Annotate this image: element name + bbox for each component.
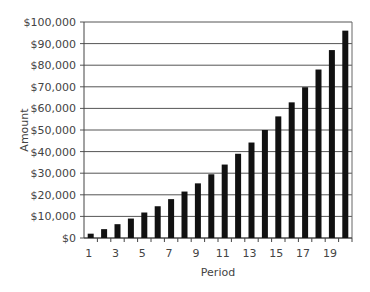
x-tick-label: 3 [112, 247, 119, 260]
x-tick-label: 17 [296, 247, 310, 260]
bar-chart: $0$10,000$20,000$30,000$40,000$50,000$60… [0, 0, 370, 292]
x-tick-label: 9 [192, 247, 199, 260]
y-tick-label: $50,000 [31, 124, 77, 137]
bar [155, 206, 161, 238]
y-tick-label: $90,000 [31, 38, 77, 51]
bar [249, 143, 255, 238]
bar [262, 130, 268, 238]
y-tick-label: $80,000 [31, 59, 77, 72]
y-tick-label: $20,000 [31, 189, 77, 202]
bar [88, 234, 94, 238]
y-tick-label: $30,000 [31, 167, 77, 180]
y-tick-label: $60,000 [31, 102, 77, 115]
y-tick-label: $0 [62, 232, 76, 245]
bar [235, 154, 241, 238]
bar [182, 192, 188, 238]
y-tick-label: $10,000 [31, 210, 77, 223]
bar [289, 102, 295, 238]
y-axis-title: Amount [18, 108, 31, 152]
bar [208, 174, 214, 238]
bar [302, 87, 308, 238]
x-tick-label: 19 [323, 247, 337, 260]
bar [115, 224, 121, 238]
x-tick-label: 7 [166, 247, 173, 260]
bar [128, 219, 134, 238]
x-tick-label: 11 [216, 247, 230, 260]
x-tick-label: 5 [139, 247, 146, 260]
bar [141, 213, 147, 238]
y-tick-label: $70,000 [31, 81, 77, 94]
bar [316, 70, 322, 238]
x-tick-label: 1 [85, 247, 92, 260]
bar [342, 31, 348, 238]
y-tick-label: $40,000 [31, 146, 77, 159]
bar [222, 165, 228, 238]
y-tick-label: $100,000 [24, 16, 77, 29]
x-axis-title: Period [201, 266, 235, 279]
x-tick-label: 15 [269, 247, 283, 260]
bar [101, 229, 107, 238]
bar [275, 116, 281, 238]
x-tick-label: 13 [243, 247, 257, 260]
bar [329, 50, 335, 238]
bar [195, 183, 201, 238]
bar [168, 199, 174, 238]
